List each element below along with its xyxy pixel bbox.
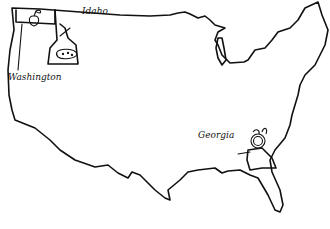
idaho-border — [48, 10, 78, 64]
us-outline-map — [0, 0, 330, 229]
washington-pointer — [18, 24, 22, 70]
label-georgia: Georgia — [198, 131, 234, 140]
label-idaho: Idaho — [82, 7, 108, 16]
peach-icon — [251, 128, 267, 148]
label-washington: Washington — [8, 73, 62, 82]
potato-icon — [56, 49, 77, 58]
